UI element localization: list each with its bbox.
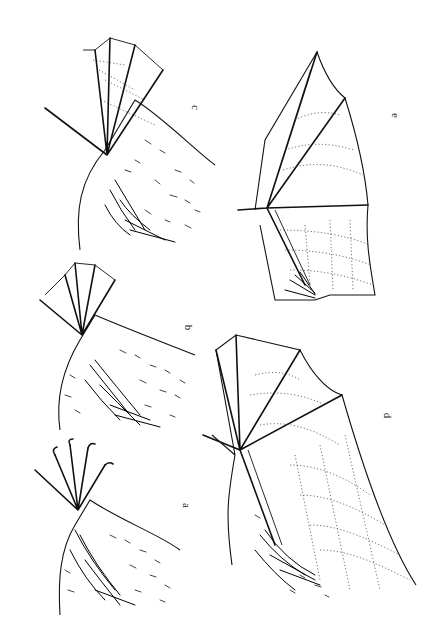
wing-illustration-a: [20, 440, 190, 625]
figure: c b a e: [0, 0, 436, 631]
panel-b: [20, 255, 205, 450]
panel-label-b: b: [183, 323, 194, 333]
panel-a: [20, 440, 190, 625]
panel-label-c: c: [190, 103, 201, 113]
wing-illustration-e: [235, 50, 380, 315]
wing-illustration-c: [35, 30, 220, 270]
panel-e: [235, 50, 380, 315]
wing-illustration-b: [20, 255, 205, 450]
panel-d: [200, 335, 420, 610]
panel-label-d: d: [382, 411, 393, 421]
panel-label-a: a: [181, 501, 192, 511]
wing-illustration-d: [200, 335, 420, 610]
panel-label-e: e: [390, 111, 401, 121]
panel-c: [35, 30, 220, 270]
